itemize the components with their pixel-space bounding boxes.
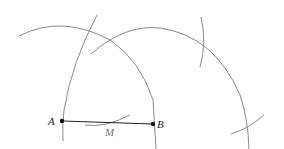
label-m: M	[105, 127, 114, 138]
arc-mark-m	[85, 115, 130, 126]
point-a	[60, 119, 64, 123]
arc-mark-top-right	[200, 17, 204, 67]
label-a: A	[48, 116, 55, 127]
arc-center-b	[91, 28, 249, 149]
geometry-canvas	[0, 0, 284, 149]
arc-center-a	[19, 26, 156, 149]
label-b: B	[157, 119, 164, 130]
construction-diagram: A B M	[0, 0, 284, 149]
point-b	[151, 122, 155, 126]
